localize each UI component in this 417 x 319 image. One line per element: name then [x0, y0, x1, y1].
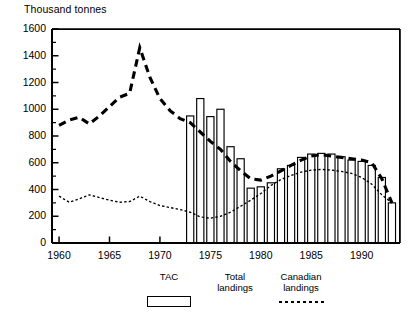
y-tick-1200: 1200	[2, 76, 46, 88]
x-tick-1980: 1980	[238, 249, 284, 261]
x-tick-1985: 1985	[288, 249, 334, 261]
figure-caption	[6, 310, 411, 319]
bar-1986	[318, 153, 325, 243]
bar-1979	[247, 188, 254, 243]
bar-1976	[217, 109, 224, 243]
x-tick-1990: 1990	[339, 249, 385, 261]
legend-item-2: Totallandings	[206, 272, 264, 307]
bar-1974	[197, 99, 204, 243]
y-tick-600: 600	[2, 156, 46, 168]
legend-label-spacer	[140, 283, 198, 294]
legend-label-line2: landings	[206, 283, 264, 294]
y-tick-1000: 1000	[2, 102, 46, 114]
bar-1987	[328, 154, 335, 243]
y-tick-1600: 1600	[2, 22, 46, 34]
bar-1978	[237, 159, 244, 243]
x-tick-1970: 1970	[137, 249, 183, 261]
legend-label: TAC	[140, 272, 198, 283]
legend-swatch-open-rectangle	[147, 296, 191, 307]
bar-1984	[298, 157, 305, 243]
legend-item-3: Canadianlandings	[272, 272, 330, 307]
bar-1980	[257, 187, 264, 243]
chart-container: Thousand tonnes 020040060080010001200140…	[0, 0, 417, 319]
x-tick-1975: 1975	[187, 249, 233, 261]
bar-1985	[308, 154, 315, 243]
legend-swatch-dotted-line	[279, 296, 323, 307]
y-tick-200: 200	[2, 209, 46, 221]
y-tick-800: 800	[2, 129, 46, 141]
bar-1991	[368, 165, 375, 243]
y-tick-0: 0	[2, 236, 46, 248]
bar-1993	[388, 203, 395, 243]
x-tick-1960: 1960	[36, 249, 82, 261]
bar-1975	[207, 117, 214, 243]
bar-1989	[348, 160, 355, 243]
bar-1990	[358, 161, 365, 243]
bar-1988	[338, 157, 345, 243]
bar-1973	[187, 116, 194, 243]
legend-label-line2: landings	[272, 283, 330, 294]
y-tick-400: 400	[2, 183, 46, 195]
y-tick-1400: 1400	[2, 49, 46, 61]
x-tick-1965: 1965	[86, 249, 132, 261]
bar-1981	[267, 183, 274, 243]
bar-1982	[277, 169, 284, 243]
